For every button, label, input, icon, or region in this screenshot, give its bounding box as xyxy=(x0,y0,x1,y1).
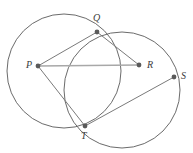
segment-ts xyxy=(85,77,174,126)
segment-pt xyxy=(38,66,85,126)
point-t xyxy=(83,124,88,129)
point-q xyxy=(95,30,100,35)
point-r xyxy=(137,63,142,68)
segment-pq xyxy=(38,32,97,66)
point-p xyxy=(36,64,41,69)
segment-pr xyxy=(38,65,139,66)
segment-qr xyxy=(97,32,139,65)
point-label-r: R xyxy=(147,60,153,70)
point-label-p: P xyxy=(26,60,32,70)
point-label-s: S xyxy=(181,71,186,81)
point-label-q: Q xyxy=(93,13,100,23)
left-circle xyxy=(7,14,121,128)
point-s xyxy=(172,75,177,80)
geometry-figure: P Q R S T xyxy=(0,0,193,153)
point-label-t: T xyxy=(81,131,87,141)
